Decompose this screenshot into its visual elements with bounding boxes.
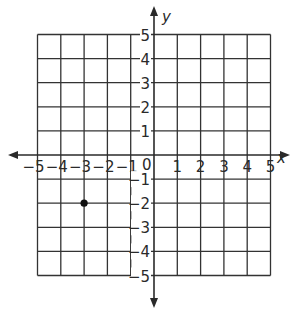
x-tick-label: −4 [46, 158, 68, 176]
y-axis-label: y [161, 8, 172, 26]
plotted-point [81, 200, 88, 207]
y-tick-label: −4 [128, 243, 150, 261]
x-axis-label: x [276, 149, 286, 167]
x-tick-label: 3 [219, 158, 229, 176]
origin-label: 0 [142, 156, 152, 174]
y-tick-label: −2 [128, 195, 150, 213]
y-tick-label: 2 [140, 99, 150, 117]
x-tick-label: −2 [92, 158, 114, 176]
y-tick-label: 4 [140, 51, 150, 69]
y-tick-label: 3 [140, 75, 150, 93]
plotted-points [81, 200, 88, 207]
arrow-up-icon [150, 6, 158, 16]
y-tick-label: 5 [140, 27, 150, 45]
x-tick-label: 4 [242, 158, 252, 176]
y-tick-label: −3 [128, 219, 150, 237]
y-tick-label: −5 [128, 268, 150, 286]
x-tick-label: −3 [69, 158, 91, 176]
arrow-left-icon [8, 151, 18, 159]
arrow-down-icon [150, 298, 158, 308]
x-tick-label: −5 [22, 158, 44, 176]
y-tick-label: 1 [140, 123, 150, 141]
x-tick-label: 5 [266, 158, 276, 176]
x-tick-label: 1 [173, 158, 183, 176]
coordinate-plane: −5−4−3−2−11234554321−1−2−3−4−5 x y 0 [0, 0, 298, 312]
x-tick-label: 2 [196, 158, 206, 176]
